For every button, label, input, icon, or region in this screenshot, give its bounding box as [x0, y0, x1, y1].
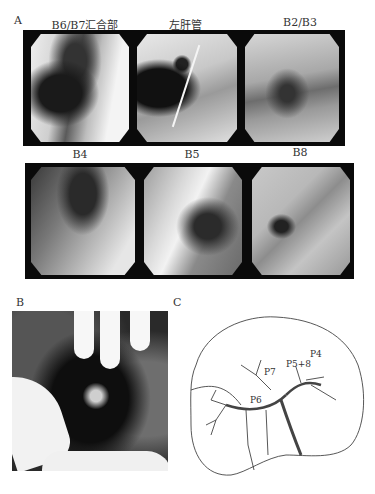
- endoscopy-image-b4: [31, 167, 135, 275]
- row2-title-3: B8: [280, 146, 320, 159]
- panel-a-label: A: [14, 14, 22, 27]
- row2-title-1: B4: [60, 148, 100, 161]
- surgical-photo: [12, 311, 168, 471]
- bile-duct-highlight: [82, 383, 110, 409]
- panel-b-label: B: [16, 296, 24, 309]
- liver-portal-vein-diagram: P4 P5+8 P7 P6: [186, 305, 372, 487]
- endoscopy-image-b6b7: [31, 34, 129, 142]
- endoscopy-row-2: [25, 163, 354, 279]
- row2-title-2: B5: [172, 148, 212, 161]
- row1-title-3: B2/B3: [260, 16, 340, 29]
- drape: [42, 451, 168, 471]
- label-p5-8: P5+8: [286, 359, 311, 369]
- label-p6: P6: [250, 395, 262, 405]
- label-p4: P4: [310, 349, 322, 359]
- panel-c-label: C: [173, 296, 181, 309]
- endoscopy-image-b8: [252, 167, 350, 275]
- endoscopy-image-left-hepatic-duct: [137, 34, 237, 142]
- endoscopy-row-1: [23, 30, 345, 146]
- retractor-finger-3: [130, 311, 150, 351]
- retractor-finger-1: [74, 311, 94, 359]
- endoscopy-image-b5: [144, 167, 242, 275]
- endoscopy-image-b2b3: [245, 34, 339, 142]
- label-p7: P7: [264, 367, 276, 377]
- retractor-finger-2: [100, 311, 120, 369]
